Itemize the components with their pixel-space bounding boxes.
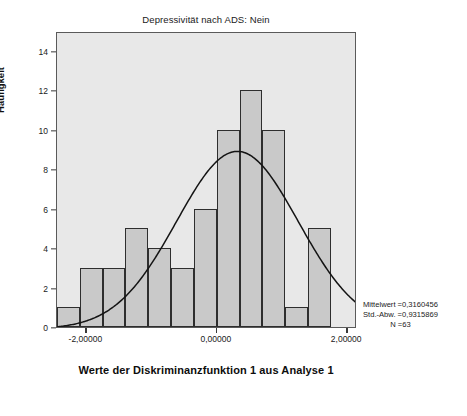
y-tick-label: 8	[22, 165, 48, 175]
chart-title: Depressivität nach ADS: Nein	[56, 14, 356, 25]
x-tick-label: 2,00000	[306, 334, 386, 344]
y-tick-label: 12	[22, 86, 48, 96]
x-tick-mark	[85, 328, 86, 333]
stat-mean: Mittelwert =0,3160456	[363, 300, 438, 310]
x-tick-label: 0,00000	[176, 334, 256, 344]
y-tick-label: 4	[22, 244, 48, 254]
y-axis-title: Häufigkeit	[0, 30, 6, 150]
chart-canvas: Depressivität nach ADS: Nein Häufigkeit …	[0, 0, 467, 416]
stat-n: N =63	[363, 320, 438, 330]
x-axis-title: Werte der Diskriminanzfunktion 1 aus Ana…	[20, 364, 392, 376]
y-tick-label: 2	[22, 284, 48, 294]
plot-inner	[57, 33, 355, 327]
y-tick-label: 6	[22, 205, 48, 215]
x-tick-mark	[216, 328, 217, 333]
stat-sd: Std.-Abw. =0,9315869	[363, 310, 438, 320]
normal-distribution-curve	[57, 33, 355, 327]
x-tick-label: -2,00000	[45, 334, 125, 344]
y-tick-label: 10	[22, 126, 48, 136]
statistics-annotation: Mittelwert =0,3160456 Std.-Abw. =0,93158…	[363, 300, 438, 331]
x-tick-mark	[346, 328, 347, 333]
plot-area	[56, 32, 356, 328]
normal-curve-path	[57, 151, 355, 326]
y-tick-label: 14	[22, 47, 48, 57]
y-tick-label: 0	[22, 323, 48, 333]
